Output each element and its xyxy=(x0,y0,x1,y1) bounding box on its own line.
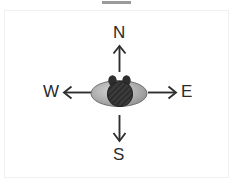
direction-label-south: S xyxy=(113,146,124,163)
direction-label-east: E xyxy=(181,83,192,100)
arrow-down-icon xyxy=(114,115,126,141)
direction-label-north: N xyxy=(113,24,125,41)
arrow-up-icon xyxy=(114,46,126,72)
arrow-left-icon xyxy=(64,87,92,99)
arrow-right-icon xyxy=(148,87,176,99)
direction-label-west: W xyxy=(43,83,59,100)
animal-top-view xyxy=(91,75,147,106)
